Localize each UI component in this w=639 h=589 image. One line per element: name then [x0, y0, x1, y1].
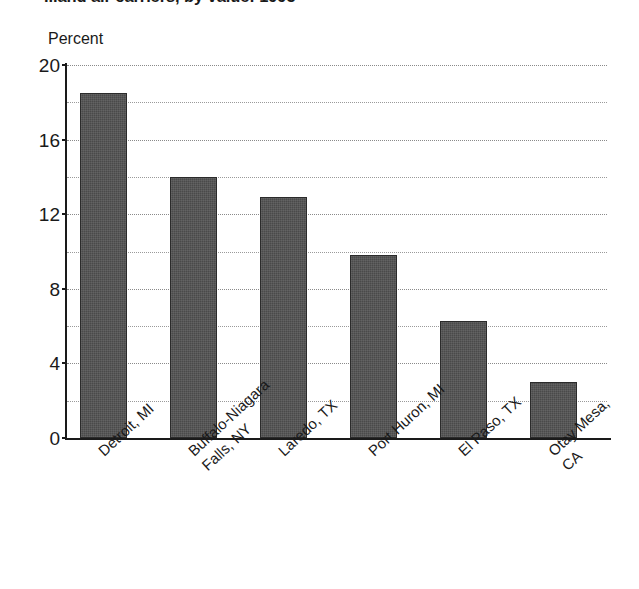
gridline-major	[67, 140, 607, 141]
y-tick-label: 12	[39, 205, 60, 224]
plot-area: 048121620	[67, 65, 607, 438]
y-tick-mark	[62, 139, 67, 141]
y-tick-label: 16	[39, 130, 60, 149]
y-axis-unit-label: Percent	[48, 30, 103, 48]
y-tick-label: 4	[49, 354, 60, 373]
bar	[80, 93, 127, 438]
gridline-minor	[67, 326, 607, 327]
y-tick-mark	[62, 213, 67, 215]
gridline-major	[67, 214, 607, 215]
y-tick-label: 20	[39, 56, 60, 75]
y-tick-mark	[62, 437, 67, 439]
gridline-minor	[67, 102, 607, 103]
gridline-major	[67, 65, 607, 66]
gridline-major	[67, 289, 607, 290]
y-tick-mark	[62, 64, 67, 66]
chart-title: ...and air carriers, by value: 1995	[44, 0, 295, 6]
bar	[170, 177, 217, 438]
y-tick-mark	[62, 362, 67, 364]
gridline-minor	[67, 252, 607, 253]
x-axis-line	[65, 438, 611, 440]
gridline-minor	[67, 177, 607, 178]
y-tick-label: 0	[49, 429, 60, 448]
y-tick-label: 8	[49, 279, 60, 298]
gridline-major	[67, 363, 607, 364]
bar	[350, 255, 397, 438]
y-tick-mark	[62, 288, 67, 290]
